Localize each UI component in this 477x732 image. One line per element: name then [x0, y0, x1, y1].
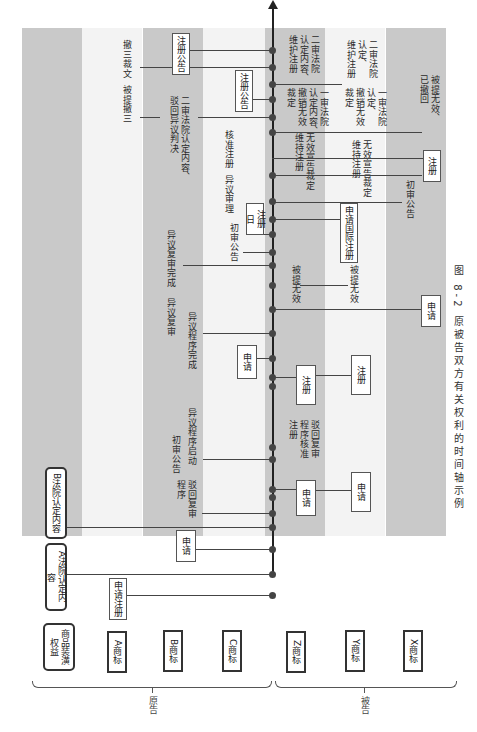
lane-label-x: X商标 [403, 630, 423, 672]
a-revoke3-line [140, 67, 272, 68]
figure-caption: 图 8-2 原被告双方有关权利的时间轴示例 [450, 265, 465, 511]
axis-dot [269, 486, 276, 493]
defendant-label: 被告 [359, 696, 372, 714]
lane-label-goodwill: 商品装潢权益 [43, 623, 75, 671]
a-apply-line [127, 595, 272, 596]
axis-dot [269, 249, 276, 256]
b-apply-line [196, 549, 272, 550]
axis-dot [269, 306, 276, 313]
y-first-court-line [272, 84, 342, 85]
b-second-court-label: 二审法院认定内容、驳回异议判决 [168, 96, 190, 182]
c-approve-label: 核准注册 [223, 130, 234, 168]
axis-dot [269, 592, 276, 599]
axis-dot [269, 330, 276, 337]
a-court-line [67, 574, 272, 575]
axis-dot [269, 64, 276, 71]
b-reg-notice-line [190, 50, 272, 51]
b-reg-notice-box: 注册公告 [172, 33, 190, 75]
lane-label-b: B商标 [163, 630, 183, 672]
x-prelim-label: 初审公告 [404, 180, 415, 218]
c-prelim-label: 初审公告 [228, 223, 239, 261]
z-invalid-label: 被提无效 [290, 265, 301, 303]
b-second-court-line [198, 117, 272, 118]
a-apply-box: 申请注册 [109, 578, 127, 620]
y-first-court-label: 一审法院认定、撤销无效裁定 [343, 88, 387, 126]
lane-label-a: A商标 [107, 631, 127, 673]
axis-dot [269, 231, 276, 238]
x-withdrawn-label: 被提无效、已撤回 [418, 75, 440, 123]
z-register-box: 注册 [296, 365, 316, 405]
b-review-line [202, 513, 272, 514]
axis-dot [269, 444, 276, 451]
axis-dot [269, 198, 276, 205]
axis-dot [269, 456, 276, 463]
time-axis-arrow-icon [268, 0, 278, 9]
axis-dot [269, 510, 276, 517]
y-register-line [316, 375, 351, 376]
axis-dot [269, 47, 276, 54]
c-reg-notice-box: 注册公告 [235, 70, 253, 112]
axis-dot [269, 216, 276, 223]
y-second-court-label: 二审法院认定、维护注册 [345, 40, 378, 78]
axis-dot [269, 96, 276, 103]
axis-dot [269, 374, 276, 381]
b-opp-start-line [203, 459, 272, 460]
z-review-label: 驳回复审程序核准注册 [287, 420, 320, 458]
y-invalid-label: 被提无效 [348, 265, 359, 303]
x-prelim-line [272, 202, 402, 203]
z-intl-box: 申请国际注册 [340, 203, 358, 263]
a-court-box: A法院认定内容 [45, 543, 67, 611]
defendant-brace [275, 681, 457, 688]
lane-label-y: Y商标 [345, 630, 365, 672]
c-reg-day-box: 注册日 [246, 203, 264, 235]
axis-dot [269, 383, 276, 390]
axis-dot [269, 494, 276, 501]
b-court-box: B法院认定内容 [45, 467, 67, 539]
lane-a [82, 28, 142, 536]
z-intl-line [272, 219, 340, 220]
axis-dot [269, 546, 276, 553]
axis-dot [269, 129, 276, 136]
x-register-line [272, 158, 423, 159]
lane-label-z: Z商标 [286, 631, 306, 673]
axis-dot [269, 571, 276, 578]
y-inval-ruling-line [272, 175, 422, 176]
b-opp-done-line [203, 333, 272, 334]
x-withdrawn-line [272, 132, 422, 133]
z-second-court-label: 二审法院认定内容、维护注册 [287, 35, 320, 83]
z-inval-ruling-label: 无效宣告裁定维持注册 [293, 133, 315, 190]
defendant-brace-tip [364, 687, 365, 693]
axis-dot [269, 282, 276, 289]
b-prelim-label: 初审公告 [170, 435, 181, 473]
y-apply-line [316, 490, 351, 491]
axis-dot [269, 355, 276, 362]
axis-dot [269, 114, 276, 121]
z-first-court-label: 一审法院认定内容、撤销无效裁定 [285, 88, 329, 136]
lane-goodwill [22, 28, 82, 536]
c-apply-box: 申请 [237, 345, 257, 379]
b-opp-start-label: 异议程序启动 [186, 408, 197, 465]
a-revoke-label: 被提撤三 [121, 85, 132, 123]
x-register-box: 注册 [423, 150, 441, 182]
plaintiff-label: 原告 [147, 696, 160, 714]
b-opp-review-done-line [183, 265, 272, 266]
axis-dot [269, 262, 276, 269]
b-apply-box: 申请 [176, 530, 196, 562]
axis-dot [269, 81, 276, 88]
y-inval-ruling-label: 无效宣告裁定维持注册 [350, 140, 372, 197]
y-apply-box: 申请 [351, 472, 371, 512]
b-review-label: 驳回复审程序 [175, 480, 197, 518]
a-revoke-line [140, 117, 160, 118]
b-court-line [67, 527, 272, 528]
c-prelim-line [243, 252, 272, 253]
x-apply-box: 申请 [421, 295, 441, 327]
plaintiff-brace-tip [152, 687, 153, 693]
x-apply-line [272, 309, 421, 310]
b-opp-review-done-label: 异议复审完成 [165, 230, 176, 287]
c-opp-label: 异议审理 [223, 175, 234, 213]
b-opp-done-label: 异议程序完成 [186, 312, 197, 369]
lane-label-c: C商标 [222, 630, 242, 672]
axis-dot [269, 172, 276, 179]
y-invalid-line [300, 285, 348, 286]
axis-dot [269, 524, 276, 531]
